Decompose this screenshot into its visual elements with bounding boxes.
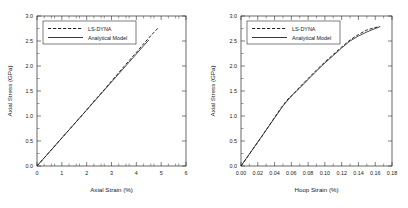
x-tick-label: 0.16 [370,170,381,176]
x-tick-label: 3 [110,170,113,176]
series-ls-dyna-left [37,28,159,167]
panel-axial-strain: Axial Stress (GPa) 0.0 0.5 1.0 1.5 2.0 2… [0,0,204,208]
x-tick-label: 5 [160,170,163,176]
legend-box-right [247,21,340,44]
x-tick-label: 4 [135,170,138,176]
y-tick-label: 2.0 [230,63,238,69]
x-tick-label: 6 [185,170,188,176]
x-tick-label: 0.02 [253,170,264,176]
y-tick-label: 2.0 [26,63,34,69]
plot-axial-stress-vs-hoop-strain: Axial Stress (GPa) 0.0 0.5 1.0 1.5 2.0 2… [204,0,408,208]
y-tick-labels-left: 0.0 0.5 1.0 1.5 2.0 2.5 3.0 [26,13,34,169]
y-tick-label: 3.0 [230,13,238,19]
y-tick-label: 0.0 [230,163,238,169]
y-tick-label: 3.0 [26,13,34,19]
panel-hoop-strain: Axial Stress (GPa) 0.0 0.5 1.0 1.5 2.0 2… [204,0,408,208]
figure-two-panel-stress-strain: Axial Stress (GPa) 0.0 0.5 1.0 1.5 2.0 2… [0,0,408,208]
y-tick-label: 2.5 [230,38,238,44]
x-tick-label: 0.10 [320,170,331,176]
y-tick-label: 0.5 [230,138,238,144]
y-axis-title-right: Axial Stress (GPa) [209,66,216,117]
plot-axial-stress-vs-axial-strain: Axial Stress (GPa) 0.0 0.5 1.0 1.5 2.0 2… [0,0,204,208]
y-axis-title-left: Axial Stress (GPa) [6,66,13,117]
y-tick-label: 1.5 [230,88,238,94]
x-tick-label: 2 [85,170,88,176]
y-tick-label: 1.0 [230,113,238,119]
x-tick-labels-right: 0.00 0.02 0.04 0.06 0.08 0.10 0.12 0.14 … [236,170,398,176]
series-analytical-model-right [241,27,379,166]
y-tick-label: 0.5 [26,138,34,144]
legend-label-ls-dyna: LS-DYNA [88,26,112,32]
x-axis-title-right: Hoop Strain (%) [294,186,338,193]
legend-right: LS-DYNA Analytical Model [247,21,340,44]
x-tick-labels-left: 0 1 2 3 4 5 6 [36,170,188,176]
x-tick-label: 0.08 [303,170,314,176]
y-tick-labels-right: 0.0 0.5 1.0 1.5 2.0 2.5 3.0 [230,13,238,169]
x-tick-label: 0.06 [286,170,297,176]
legend-box-left [43,21,136,44]
x-axis-title-left: Axial Strain (%) [90,186,133,193]
x-tick-label: 0.12 [336,170,347,176]
x-tick-label: 1 [60,170,63,176]
legend-label-ls-dyna: LS-DYNA [292,26,316,32]
legend-label-analytical-model: Analytical Model [292,35,331,41]
x-tick-label: 0.14 [353,170,364,176]
x-tick-label: 0.18 [387,170,398,176]
y-tick-label: 1.5 [26,88,34,94]
legend-left: LS-DYNA Analytical Model [43,21,136,44]
x-tick-label: 0 [36,170,39,176]
x-tick-label: 0.04 [269,170,280,176]
y-tick-label: 2.5 [26,38,34,44]
legend-label-analytical-model: Analytical Model [88,35,127,41]
y-tick-label: 1.0 [26,113,34,119]
y-tick-label: 0.0 [26,163,34,169]
x-tick-label: 0.00 [236,170,247,176]
series-ls-dyna-right [241,27,380,167]
